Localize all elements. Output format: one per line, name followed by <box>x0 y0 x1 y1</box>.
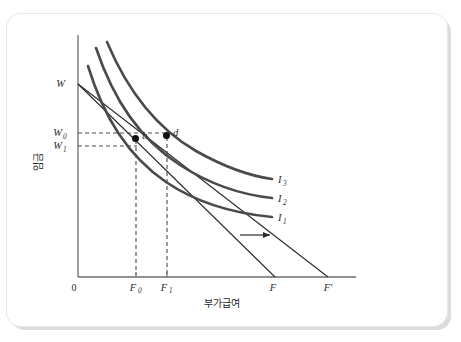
label-wage-high-sub: 0 <box>63 133 67 141</box>
label-fringe-high-sub: 1 <box>169 287 173 295</box>
budget-shift-arrow-head <box>263 232 270 238</box>
label-budget-end-2: F′ <box>323 282 333 293</box>
y-axis-title: 임금 <box>32 153 44 171</box>
label-budget-end-1: F <box>269 282 277 293</box>
guide-lines-group <box>78 133 168 275</box>
point-d-marker <box>163 132 170 139</box>
label-curve-i1-sub: 1 <box>283 218 287 226</box>
label-origin: 0 <box>72 282 77 293</box>
indifference-curve-i3 <box>107 42 272 179</box>
label-curve-i3: I <box>277 174 282 185</box>
label-fringe-low: F <box>129 282 137 293</box>
label-wage-low: W <box>53 140 63 151</box>
figure-root: W W 0 W 1 0 F 0 F 1 F F′ b d I <box>0 0 461 342</box>
indifference-curve-chart: W W 0 W 1 0 F 0 F 1 F F′ b d I <box>0 0 461 342</box>
indifference-curves-group <box>88 42 272 217</box>
label-curve-i2-sub: 2 <box>283 199 287 207</box>
point-b-marker <box>132 135 139 142</box>
label-wage-high: W <box>53 127 63 138</box>
tickmarks-group <box>136 272 167 277</box>
label-fringe-high: F <box>160 282 168 293</box>
label-point-b: b <box>142 130 147 141</box>
indifference-curve-i2 <box>96 48 272 198</box>
budget-line-wf-prime <box>78 84 328 277</box>
text-labels-group: W W 0 W 1 0 F 0 F 1 F F′ b d I <box>32 78 333 309</box>
budget-shift-arrow-group <box>240 232 270 238</box>
label-wage-intercept: W <box>56 78 66 89</box>
label-curve-i3-sub: 3 <box>282 180 287 188</box>
label-point-d: d <box>173 127 179 138</box>
x-axis-title: 부가급여 <box>204 298 240 309</box>
budget-lines-group <box>78 84 328 277</box>
label-wage-low-sub: 1 <box>63 146 67 154</box>
label-curve-i2: I <box>277 193 282 204</box>
label-fringe-low-sub: 0 <box>138 287 142 295</box>
label-curve-i1: I <box>277 212 282 223</box>
